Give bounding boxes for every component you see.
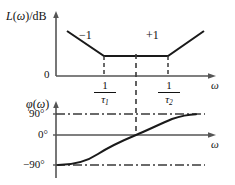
phase-plot-group (53, 101, 216, 178)
magnitude-y-axis-label: L(ω)/dB (6, 10, 47, 22)
phase-tick-label-0: 0° (38, 129, 48, 140)
magnitude-y-axis-arrow (53, 11, 59, 18)
magnitude-plot-group (53, 11, 216, 79)
corner-frequency-label-tau1: 1 τ1 (94, 80, 116, 107)
phase-y-axis-arrow (53, 101, 59, 108)
corner-frequency-label-tau2: 1 τ2 (158, 80, 180, 107)
magnitude-x-axis-label: ω (211, 80, 219, 91)
magnitude-origin-label: 0 (44, 69, 50, 80)
corner-frequency-tau2-denominator: τ2 (158, 93, 180, 107)
corner-frequency-tau1-denominator: τ1 (94, 93, 116, 107)
phase-curve (58, 114, 196, 165)
corner-frequency-tau2-numerator: 1 (158, 80, 180, 92)
slope-label-minus-one: −1 (79, 29, 92, 41)
slope-label-plus-one: +1 (146, 29, 159, 41)
phase-x-axis-label: ω (211, 139, 219, 150)
phase-tick-label-minus-90: −90° (23, 159, 45, 170)
bode-plot-figure: L(ω)/dB 0 ω −1 +1 1 τ1 1 τ2 φ(ω) 90° 0° … (0, 0, 235, 185)
phase-tick-label-90: 90° (29, 108, 44, 119)
corner-frequency-tau1-numerator: 1 (94, 80, 116, 92)
magnitude-x-axis-arrow (208, 73, 216, 79)
phase-x-axis-arrow (208, 132, 216, 138)
